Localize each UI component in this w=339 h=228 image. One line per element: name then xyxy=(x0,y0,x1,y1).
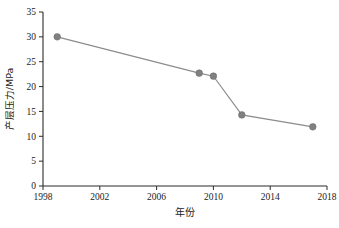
x-tick-label: 2002 xyxy=(90,192,109,202)
y-tick-label: 15 xyxy=(27,107,37,117)
x-tick-label: 1998 xyxy=(34,192,53,202)
y-tick-label: 20 xyxy=(27,82,37,92)
y-tick-label: 0 xyxy=(31,181,36,191)
x-tick-label: 2010 xyxy=(204,192,223,202)
y-tick-label: 30 xyxy=(27,32,37,42)
data-point-marker xyxy=(54,34,61,41)
data-point-marker xyxy=(310,124,317,131)
line-chart: 05101520253035 199820022006201020142018 … xyxy=(0,0,339,228)
data-point-marker xyxy=(196,70,203,77)
x-tick-label: 2018 xyxy=(318,192,337,202)
x-axis-title: 年份 xyxy=(175,206,195,218)
data-point-marker xyxy=(210,73,217,80)
y-tick-label: 5 xyxy=(31,156,36,166)
x-tick-label: 2006 xyxy=(147,192,166,202)
y-tick-label: 10 xyxy=(27,132,37,142)
chart-container: 05101520253035 199820022006201020142018 … xyxy=(0,0,339,228)
x-tick-label: 2014 xyxy=(261,192,280,202)
y-tick-label: 25 xyxy=(27,57,37,67)
y-axis-title: 产层压力/MPa xyxy=(4,68,15,131)
y-tick-label: 35 xyxy=(27,7,37,17)
data-point-marker xyxy=(239,112,246,119)
